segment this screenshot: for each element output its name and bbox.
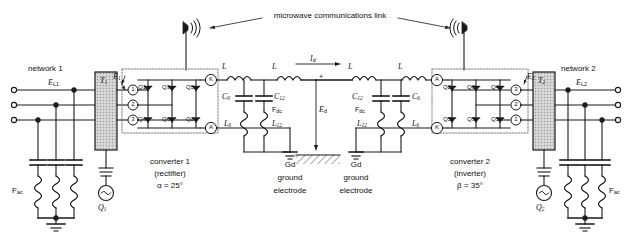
thyristor-q4-label: Q4: [138, 116, 146, 122]
dc-cap-c12-right-label: C12: [352, 92, 363, 101]
converter2-voltage-label: E2: [527, 72, 535, 81]
dc-voltage-label: Ed: [319, 105, 327, 114]
converter1-voltage-label: E1: [113, 72, 121, 81]
network1-source-label: Q1: [98, 203, 106, 212]
dc-line-right: [316, 77, 437, 160]
thyristor-q1-label: Q1: [138, 84, 146, 90]
transformer-t1-label: T1: [100, 76, 107, 85]
dc-line-left: [217, 77, 316, 160]
converter2-phase-2: 2: [514, 101, 517, 107]
dc-cap-c6-right-label: C6: [412, 92, 420, 101]
network1-ac-lines: [11, 87, 95, 160]
transformer-t2: [521, 72, 555, 201]
converter2-mode: (inverter): [454, 169, 486, 178]
dc-polarity-label: +: [319, 73, 323, 80]
dc-inductor-l-label-2: L: [272, 62, 276, 71]
thyristor-q3-label: Q3: [162, 84, 170, 90]
network2-source-label: Q2: [536, 203, 544, 212]
converter2-name: converter 2: [450, 157, 490, 166]
network1-ac-filter-label: Fac: [12, 186, 23, 195]
thyristor-q2-label: Q2: [186, 116, 194, 122]
dc-ind-l12-right-label: L12: [357, 119, 367, 128]
converter2-phase-1: 1: [514, 116, 517, 122]
dc-ind-l6-left-label: L6: [224, 119, 231, 128]
dc-ind-l12-left-label: L12: [272, 119, 282, 128]
dc-inductor-l-label-1: L: [222, 62, 226, 71]
dc-inductor-l-label-4: L: [398, 62, 402, 71]
dc-filter-right-label: Fdc: [355, 106, 365, 114]
ground-left-line2: electrode: [274, 186, 307, 195]
converter1-firing-angle: α = 25°: [157, 181, 183, 190]
converter1-mode: (rectifier): [154, 169, 186, 178]
ground-right-line2: electrode: [340, 186, 373, 195]
ground-left-line1: ground: [278, 173, 303, 182]
dc-inductor-l-label-3: L: [348, 62, 352, 71]
thyristor-q2-right-label: Q2: [443, 84, 451, 90]
ground-right-line1: ground: [344, 173, 369, 182]
network2-line-voltage-label: EL2: [576, 78, 587, 87]
ground-left-symbol: Gd: [285, 160, 296, 169]
dc-center-measurements: [296, 64, 340, 164]
thyristor-q1-right-label: Q1: [491, 116, 499, 122]
network2-label: network 2: [561, 64, 596, 73]
network1-ac-filter-inductors: [35, 176, 78, 231]
network2-ac-filter-inductors: [565, 176, 606, 231]
ground-right-symbol: Gd: [351, 160, 362, 169]
converter2-terminal-a: A: [435, 76, 439, 82]
hvdc-diagram: microwave communications link network 1 …: [0, 0, 632, 243]
thyristor-q3-right-label: Q3: [467, 116, 475, 122]
dc-cap-c12-left-label: C12: [274, 92, 285, 101]
network1-line-voltage-label: EL1: [48, 78, 59, 87]
converter1-terminal-k: K: [209, 76, 213, 82]
dc-ind-l6-right-label: L6: [412, 119, 419, 128]
dc-current-label: Id: [310, 54, 316, 63]
converter2-firing-angle: β = 35°: [457, 181, 483, 190]
converter1-phase-2: 2: [131, 101, 134, 107]
thyristor-q6-right-label: Q6: [467, 84, 475, 90]
network1-ac-filter-caps: [30, 160, 82, 176]
network2-ac-filter-caps: [560, 160, 610, 176]
right-antenna-icon: [450, 19, 467, 70]
network2-ac-lines: [555, 87, 621, 160]
microwave-link-label: microwave communications link: [274, 11, 386, 20]
converter2-phase-3: 3: [514, 86, 517, 92]
transformer-t2-label: T2: [538, 76, 545, 85]
converter1-terminal-a: A: [209, 124, 213, 130]
converter2-terminal-k: K: [435, 124, 439, 130]
transformer-t1: [95, 72, 117, 201]
converter1-input-lines: [117, 82, 138, 125]
converter1-phase-1: 1: [131, 86, 134, 92]
thyristor-q5-right-label: Q5: [443, 116, 451, 122]
converter1-phase-3: 3: [131, 116, 134, 122]
converter1-name: converter 1: [150, 157, 190, 166]
thyristor-q5-label: Q5: [186, 84, 194, 90]
network1-label: network 1: [28, 64, 63, 73]
thyristor-q4-right-label: Q4: [491, 84, 499, 90]
thyristor-q6-label: Q6: [162, 116, 170, 122]
left-antenna-icon: [183, 19, 200, 70]
network2-ac-filter-label: Fac: [609, 186, 620, 195]
dc-cap-c6-left-label: C6: [222, 92, 230, 101]
dc-filter-left-label: Fdc: [272, 106, 282, 114]
